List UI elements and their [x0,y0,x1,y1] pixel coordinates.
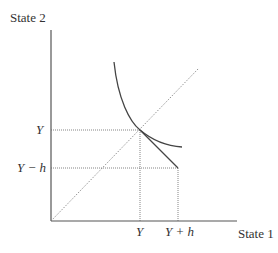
x-axis-label: State 1 [238,226,274,242]
x-tick-y-plus-h: Y + h [165,224,194,240]
y-axis-label: State 2 [10,10,46,26]
x-tick-y: Y [136,224,143,240]
indifference-curve [114,62,182,147]
certainty-line [51,68,199,221]
y-tick-y: Y [36,122,43,138]
y-tick-y-minus-h: Y − h [17,160,46,176]
budget-segment [140,130,178,168]
